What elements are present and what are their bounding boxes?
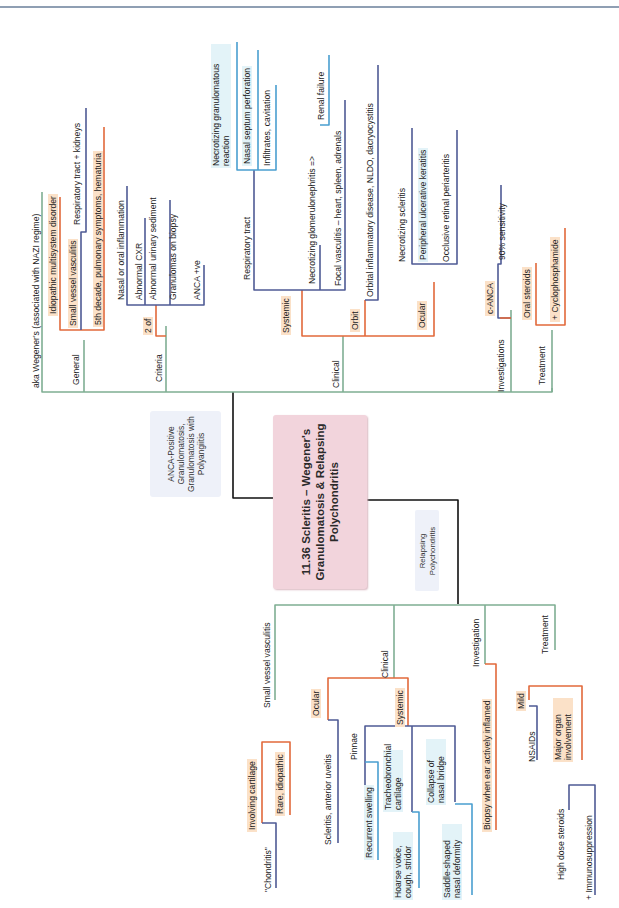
node-rp-ocular[interactable]: Ocular [311, 689, 321, 718]
node-criteria-item-4[interactable]: Granulomas on biopsy [168, 214, 178, 300]
node-rp-investigation[interactable]: Investigation [471, 619, 481, 667]
alias-callout: ANCA-Positive Granulomatosis, Granulomat… [150, 411, 221, 497]
node-renal-failure[interactable]: Renal failure [316, 72, 326, 120]
node-systemic-wegener[interactable]: Systemic [281, 296, 291, 335]
node-resp-kidneys[interactable]: Respiratory tract + kidneys [72, 123, 82, 225]
node-clinical-wegener[interactable]: Clinical [331, 360, 341, 388]
node-treatment-wegener[interactable]: Treatment [537, 346, 547, 385]
node-hoarse-voice[interactable]: Hoarse voice, cough, stridor [393, 832, 413, 900]
node-fifth-decade[interactable]: 5th decade, pulmonary symptoms, hematuri… [93, 151, 103, 327]
node-small-vessel-vasculitis[interactable]: Small vessel vasculitis [68, 239, 78, 328]
node-ocular-wegener[interactable]: Ocular [417, 301, 427, 330]
node-criteria-item-5[interactable]: ANCA +ve [192, 260, 202, 300]
node-high-dose-steroids[interactable]: High dose steroids [556, 809, 566, 880]
node-c-anca[interactable]: c-ANCA [485, 281, 495, 316]
relapsing-callout-text: Relapsing Polychondritis [418, 512, 437, 590]
node-aka-wegener[interactable]: aka Wegener's (associated with NAZI regi… [31, 214, 41, 388]
node-recurrent-swelling[interactable]: Recurrent swelling [364, 785, 374, 860]
node-two-of[interactable]: 2 of [143, 317, 153, 335]
node-orbital-disease[interactable]: Orbital inflammatory disease, NLDO, dacr… [365, 103, 375, 297]
node-rp-treatment[interactable]: Treatment [540, 615, 550, 654]
node-criteria-item-2[interactable]: Abnormal CXR [134, 243, 144, 300]
central-topic[interactable]: 11.36 Scleritis – Wegener's Granulomatos… [273, 415, 367, 589]
node-rp-small-vessel[interactable]: Small vessel vasculitis [262, 623, 272, 708]
node-puk[interactable]: Peripheral ulcerative keratitis [418, 148, 428, 262]
node-respiratory-tract[interactable]: Respiratory tract [242, 217, 252, 280]
node-cyclophosphamide[interactable]: + Cyclophosphamide [550, 238, 560, 323]
node-idiopathic[interactable]: Idiopathic multisystem disorder [48, 194, 58, 316]
node-necrotizing-reaction[interactable]: Necrotizing granulomatous reaction [211, 44, 231, 168]
node-sensitivity[interactable]: 90% sensitivity [497, 203, 507, 260]
node-general[interactable]: General [71, 354, 81, 385]
node-oral-steroids[interactable]: Oral steroids [522, 267, 532, 320]
node-focal-vasculitis[interactable]: Focal vasculitis – heart, spleen, adrena… [333, 131, 343, 286]
node-rp-systemic[interactable]: Systemic [395, 688, 405, 727]
node-necrotizing-scleritis[interactable]: Necrotizing scleritis [397, 188, 407, 262]
node-nsaids[interactable]: NSAIDs [527, 731, 537, 762]
relapsing-callout: Relapsing Polychondritis [415, 510, 439, 591]
node-nasal-collapse[interactable]: Collapse of nasal bridge [426, 739, 446, 805]
node-retinal-periarteritis[interactable]: Occlusive retinal periarteritis [441, 154, 451, 262]
alias-callout-text: ANCA-Positive Granulomatosis, Granulomat… [166, 413, 206, 495]
node-infiltrates[interactable]: Infiltrates, cavitation [262, 90, 272, 166]
node-rare-idiopathic[interactable]: Rare, idiopathic [275, 752, 285, 816]
node-orbit[interactable]: Orbit [350, 309, 360, 332]
node-mild[interactable]: Mild [516, 691, 526, 711]
node-tracheobronchial[interactable]: Tracheobronchial cartilage [383, 750, 403, 812]
node-scleritis-uveitis[interactable]: Scleritis, anterior uveitis [323, 754, 333, 845]
node-criteria[interactable]: Criteria [154, 354, 164, 382]
node-investigations[interactable]: Investigations [496, 339, 506, 392]
node-involving-cartilage[interactable]: Involving cartilage [247, 759, 257, 832]
node-rp-clinical[interactable]: Clinical [380, 650, 390, 678]
node-biopsy[interactable]: Biopsy when ear actively inflamed [482, 699, 492, 832]
node-chondritis[interactable]: "Chondritis" [263, 847, 273, 892]
node-glomerulonephritis[interactable]: Necrotizing glomerulonephritis => [307, 156, 317, 284]
node-pinnae[interactable]: Pinnae [349, 733, 359, 760]
node-immunosuppression[interactable]: + Immunosuppression [584, 815, 594, 900]
node-nasal-septum[interactable]: Nasal septum perforation [242, 66, 252, 166]
node-saddle-nose[interactable]: Saddle-shaped nasal deformity [442, 824, 462, 900]
node-criteria-item-3[interactable]: Abnormal urinary sediment [148, 197, 158, 300]
node-major-organ[interactable]: Major organ involvement [553, 698, 573, 762]
central-topic-title: 11.36 Scleritis – Wegener's Granulomatos… [299, 417, 341, 587]
node-criteria-item-1[interactable]: Nasal or oral inflammation [116, 200, 126, 300]
